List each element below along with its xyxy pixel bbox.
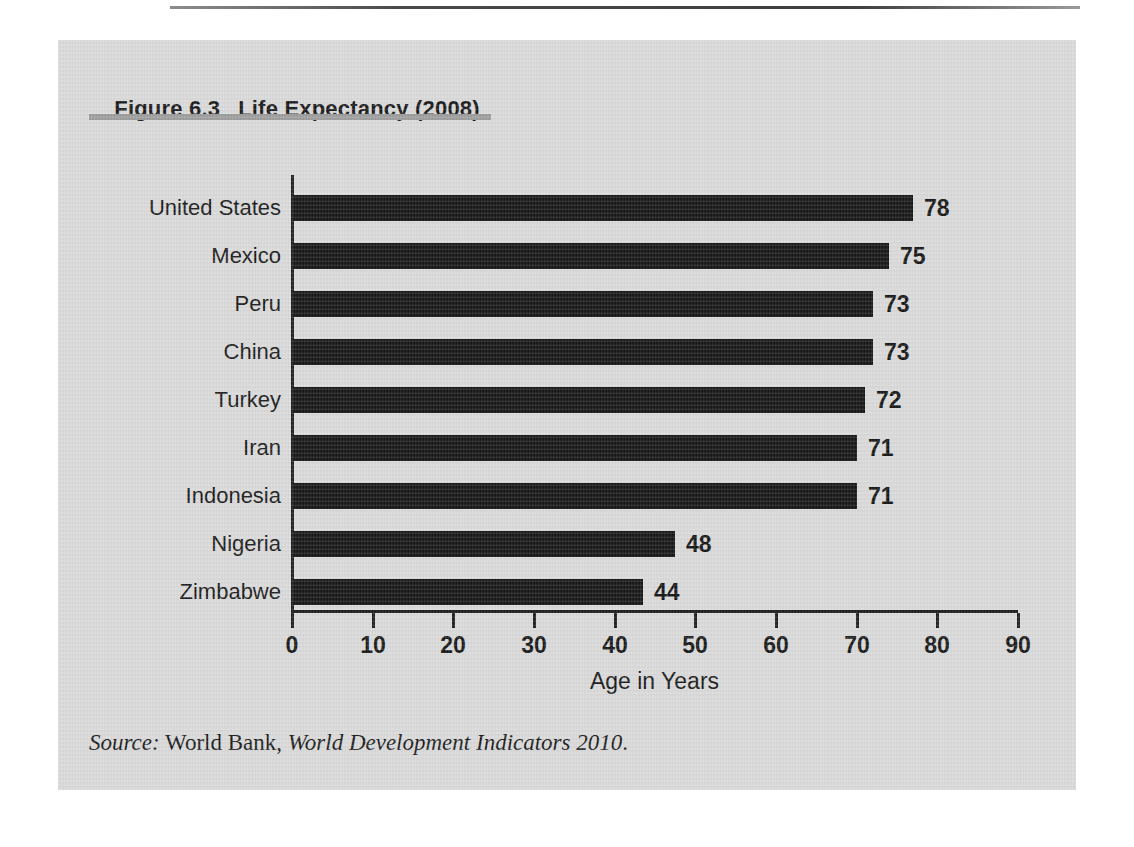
bar <box>294 291 873 317</box>
bar-value-label: 71 <box>868 483 894 510</box>
x-tick-60 <box>775 613 778 628</box>
category-label: United States <box>149 195 281 221</box>
figure-panel: Figure 6.3Life Expectancy (2008) 0 10 20… <box>58 40 1076 790</box>
category-label: Zimbabwe <box>180 579 281 605</box>
x-tick-50 <box>694 613 697 628</box>
bar-value-label: 71 <box>868 435 894 462</box>
category-label: China <box>224 339 281 365</box>
bar-row: Nigeria 48 <box>58 531 1076 557</box>
bar <box>294 243 889 269</box>
x-tick-30 <box>533 613 536 628</box>
x-tick-90 <box>1017 613 1020 628</box>
bar-value-label: 48 <box>686 531 712 558</box>
x-axis-title: Age in Years <box>291 668 1018 695</box>
bar-row: Indonesia 71 <box>58 483 1076 509</box>
bar <box>294 387 865 413</box>
bar <box>294 483 857 509</box>
bar-value-label: 78 <box>924 195 950 222</box>
bar-row: Zimbabwe 44 <box>58 579 1076 605</box>
figure-source: Source: World Bank, World Development In… <box>89 730 628 756</box>
x-tick-70 <box>856 613 859 628</box>
page-top-rule <box>170 6 1080 9</box>
bar <box>294 579 643 605</box>
x-tick-40 <box>614 613 617 628</box>
source-publisher: World Bank, <box>165 730 282 755</box>
x-tick-20 <box>452 613 455 628</box>
x-tick-label-90: 90 <box>1005 632 1031 659</box>
x-tick-label-20: 20 <box>440 632 466 659</box>
x-tick-80 <box>936 613 939 628</box>
source-prefix: Source: <box>89 730 160 755</box>
bar-chart: 0 10 20 30 40 50 60 70 80 90 United Stat… <box>58 40 1076 790</box>
x-tick-10 <box>372 613 375 628</box>
bar-row: Mexico 75 <box>58 243 1076 269</box>
x-tick-label-60: 60 <box>763 632 789 659</box>
category-label: Turkey <box>215 387 281 413</box>
source-work: World Development Indicators 2010 <box>288 730 623 755</box>
bar <box>294 435 857 461</box>
x-tick-label-30: 30 <box>521 632 547 659</box>
category-label: Indonesia <box>186 483 281 509</box>
x-tick-label-80: 80 <box>924 632 950 659</box>
category-label: Nigeria <box>211 531 281 557</box>
category-label: Peru <box>235 291 281 317</box>
bar-row: United States 78 <box>58 195 1076 221</box>
x-tick-label-10: 10 <box>360 632 386 659</box>
x-tick-0 <box>291 613 294 628</box>
bar <box>294 339 873 365</box>
bar-value-label: 73 <box>884 339 910 366</box>
x-tick-label-50: 50 <box>682 632 708 659</box>
x-tick-label-0: 0 <box>286 632 299 659</box>
source-suffix: . <box>622 730 628 755</box>
x-tick-label-70: 70 <box>844 632 870 659</box>
bar <box>294 195 913 221</box>
bar-value-label: 75 <box>900 243 926 270</box>
x-axis-line <box>291 610 1018 613</box>
bar-row: Iran 71 <box>58 435 1076 461</box>
bar-value-label: 73 <box>884 291 910 318</box>
x-tick-label-40: 40 <box>602 632 628 659</box>
bar-row: Turkey 72 <box>58 387 1076 413</box>
category-label: Iran <box>243 435 281 461</box>
bar <box>294 531 675 557</box>
bar-value-label: 72 <box>876 387 902 414</box>
bar-row: China 73 <box>58 339 1076 365</box>
category-label: Mexico <box>211 243 281 269</box>
bar-value-label: 44 <box>654 579 680 606</box>
bar-row: Peru 73 <box>58 291 1076 317</box>
